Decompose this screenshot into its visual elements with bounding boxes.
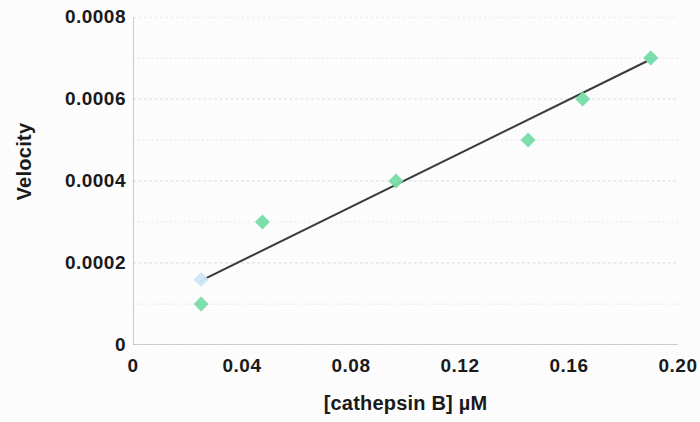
chart-figure: Velocity 00.00020.00040.00060.0008 [cath… <box>0 0 700 422</box>
data-point <box>255 215 270 230</box>
y-tick-label: 0.0004 <box>26 170 126 192</box>
plot-area <box>133 17 678 345</box>
trendline <box>201 58 653 281</box>
trendline-segment <box>201 58 653 281</box>
data-point <box>194 297 209 312</box>
y-tick-label: 0.0006 <box>26 88 126 110</box>
x-tick-label: 0.12 <box>415 355 505 377</box>
data-point <box>521 133 536 148</box>
x-tick-label: 0 <box>88 355 178 377</box>
x-tick-label: 0.08 <box>306 355 396 377</box>
data-point <box>575 92 590 107</box>
data-point <box>643 51 658 66</box>
y-tick-label: 0.0002 <box>26 252 126 274</box>
x-tick-label: 0.20 <box>633 355 700 377</box>
data-point-overlay <box>194 272 209 287</box>
x-tick-label: 0.04 <box>197 355 287 377</box>
y-tick-label: 0 <box>26 334 126 356</box>
plot-svg <box>133 17 678 345</box>
x-axis-title: [cathepsin B] µM <box>133 392 678 415</box>
y-tick-label: 0.0008 <box>26 6 126 28</box>
x-tick-label: 0.16 <box>524 355 614 377</box>
